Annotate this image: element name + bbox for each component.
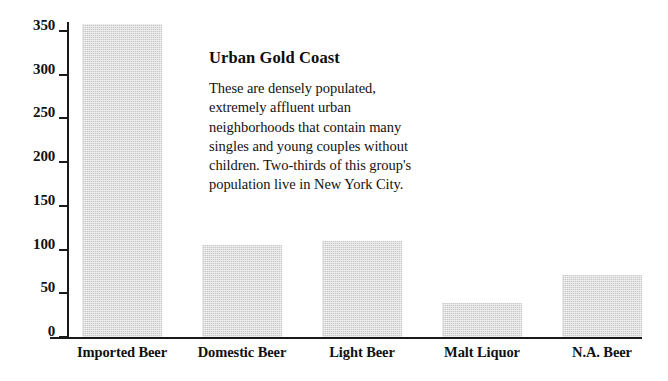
bar-chart: 050100150200250300350 Imported BeerDomes… (0, 0, 668, 381)
y-axis-tick-label: 0 (14, 324, 55, 339)
x-axis-line (50, 337, 642, 339)
y-axis-tick-label: 350 (14, 18, 55, 33)
x-axis-label: Malt Liquor (421, 343, 543, 361)
bar (322, 241, 402, 337)
y-axis-tick (59, 30, 68, 32)
y-axis-tick (59, 336, 68, 338)
annotation-block: Urban Gold Coast These are densely popul… (209, 48, 499, 195)
y-axis-tick-label: 50 (14, 280, 55, 295)
y-axis-tick-label: 250 (14, 105, 55, 120)
bar (562, 275, 642, 337)
plot-area: 050100150200250300350 Imported BeerDomes… (0, 0, 668, 381)
y-axis-tick (59, 292, 68, 294)
bar (82, 24, 162, 337)
annotation-body: These are densely populated, extremely a… (209, 79, 499, 195)
y-axis-line (67, 22, 69, 338)
y-axis-tick (59, 74, 68, 76)
bar (202, 245, 282, 337)
y-axis-tick (59, 117, 68, 119)
annotation-title: Urban Gold Coast (209, 48, 499, 68)
x-axis-label: Imported Beer (61, 343, 183, 361)
x-axis-label: Light Beer (301, 343, 423, 361)
y-axis-tick-label: 300 (14, 62, 55, 77)
x-axis-label: Domestic Beer (181, 343, 303, 361)
y-axis-tick (59, 249, 68, 251)
bar (442, 303, 522, 337)
x-axis-label: N.A. Beer (541, 343, 663, 361)
y-axis-tick-label: 150 (14, 193, 55, 208)
y-axis-tick (59, 161, 68, 163)
y-axis-tick-label: 200 (14, 149, 55, 164)
y-axis-tick-label: 100 (14, 237, 55, 252)
y-axis-tick (59, 205, 68, 207)
